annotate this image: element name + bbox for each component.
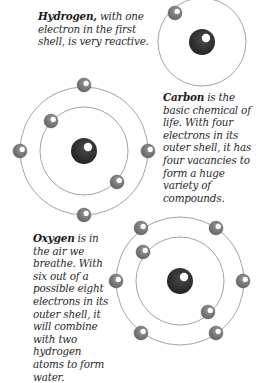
oxygen-label: Oxygen	[33, 232, 75, 244]
hydrogen-label: Hydrogen,	[38, 10, 97, 22]
hydrogen-nucleus	[189, 29, 215, 55]
oxygen-electron	[109, 274, 123, 288]
hydrogen-electron	[168, 6, 182, 20]
carbon-electron	[44, 114, 58, 128]
oxygen-description: is in the air we breathe. With six out o…	[33, 232, 108, 383]
oxygen-electron	[236, 274, 250, 288]
carbon-caption: Carbon is the basic chemical of life. Wi…	[163, 91, 258, 204]
carbon-label: Carbon	[163, 91, 204, 103]
carbon-electron	[77, 78, 91, 92]
oxygen-electron	[209, 221, 223, 235]
carbon-description: is the basic chemical of life. With four…	[163, 91, 251, 204]
oxygen-electron	[209, 326, 223, 340]
hydrogen-atom	[158, 0, 246, 86]
oxygen-electron	[134, 326, 148, 340]
oxygen-atom	[109, 217, 250, 345]
oxygen-nucleus	[167, 268, 193, 294]
oxygen-electron	[136, 245, 150, 259]
carbon-electron	[141, 144, 155, 158]
carbon-nucleus	[71, 138, 97, 164]
carbon-electron	[13, 144, 27, 158]
carbon-electron	[77, 208, 91, 222]
oxygen-electron	[201, 305, 215, 319]
oxygen-electron	[134, 221, 148, 235]
carbon-electron	[110, 175, 124, 189]
carbon-atom	[13, 78, 155, 222]
oxygen-caption: Oxygen is in the air we breathe. With si…	[33, 232, 111, 383]
hydrogen-caption: Hydrogen, with one electron in the first…	[38, 10, 158, 48]
